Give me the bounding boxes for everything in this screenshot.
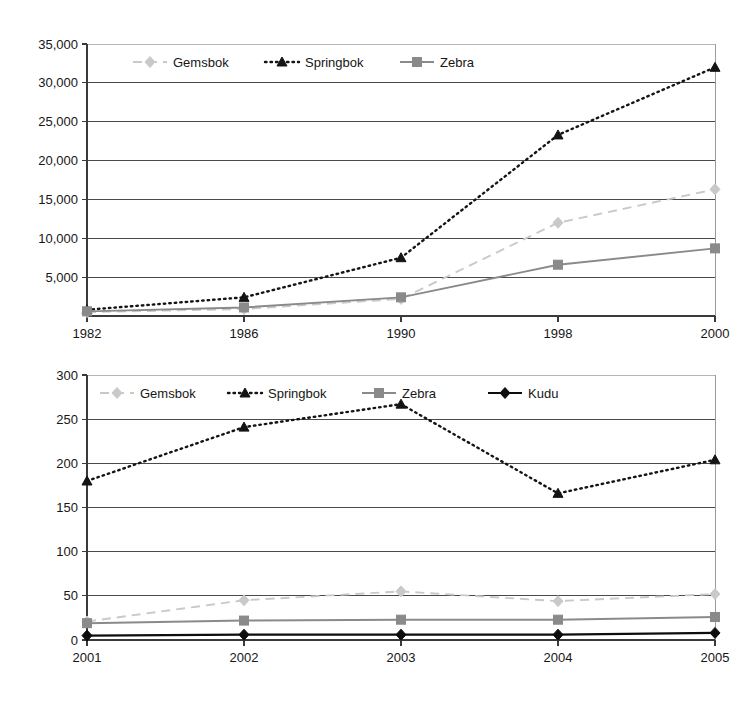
y-axis-ticks: 300250200150100500 (56, 368, 87, 648)
chart-bottom-container: 30025020015010050020012002200320042005Ge… (0, 352, 746, 711)
y-tick-label: 30,000 (38, 75, 78, 90)
legend-marker-zebra (375, 389, 384, 398)
x-tick-label: 2004 (544, 650, 573, 665)
data-point-zebra-2001 (83, 619, 92, 628)
data-point-zebra-2004 (554, 615, 563, 624)
data-point-kudu-2005 (710, 627, 720, 638)
data-point-zebra-1998 (554, 260, 563, 269)
data-point-springbok-2000 (710, 62, 720, 71)
data-point-gemsbok-1998 (553, 217, 563, 228)
y-tick-label: 100 (56, 544, 78, 559)
legend: GemsbokSpringbokZebra (133, 55, 475, 70)
series-line-springbok (87, 404, 715, 493)
data-point-kudu-2002 (239, 629, 249, 640)
data-point-zebra-2000 (711, 244, 720, 253)
legend-label-zebra: Zebra (440, 55, 475, 70)
series-springbok (82, 62, 720, 313)
legend-label-gemsbok: Gemsbok (173, 55, 229, 70)
data-point-zebra-1990 (397, 293, 406, 302)
y-tick-label: 15,000 (38, 192, 78, 207)
series-group (82, 399, 720, 641)
legend-item-springbok[interactable]: Springbok (228, 386, 327, 401)
data-point-kudu-2001 (82, 630, 92, 641)
data-point-zebra-2005 (711, 613, 720, 622)
x-tick-label: 2000 (701, 326, 730, 341)
x-tick-label: 1998 (544, 326, 573, 341)
y-tick-label: 250 (56, 412, 78, 427)
data-point-springbok-2004 (553, 488, 563, 497)
legend-label-kudu: Kudu (528, 386, 558, 401)
legend-item-zebra[interactable]: Zebra (400, 55, 475, 70)
data-point-zebra-2003 (397, 615, 406, 624)
series-kudu (82, 627, 720, 641)
legend-item-gemsbok[interactable]: Gemsbok (100, 386, 196, 401)
y-tick-label: 150 (56, 500, 78, 515)
legend-marker-zebra (413, 58, 422, 67)
data-point-springbok-2005 (710, 455, 720, 464)
data-point-zebra-1986 (240, 303, 249, 312)
y-tick-label: 300 (56, 368, 78, 383)
legend-marker-gemsbok (145, 57, 155, 68)
x-tick-label: 1986 (230, 326, 259, 341)
legend-item-springbok[interactable]: Springbok (265, 55, 364, 70)
series-zebra (83, 613, 720, 628)
y-tick-label: 35,000 (38, 37, 78, 52)
gridlines (87, 44, 715, 277)
legend-marker-kudu (500, 388, 510, 399)
x-tick-label: 1990 (387, 326, 416, 341)
chart-bottom-svg: 30025020015010050020012002200320042005Ge… (0, 352, 746, 711)
legend-label-springbok: Springbok (305, 55, 364, 70)
x-tick-label: 2005 (701, 650, 730, 665)
legend-item-gemsbok[interactable]: Gemsbok (133, 55, 229, 70)
legend-label-zebra: Zebra (402, 386, 437, 401)
data-point-zebra-2002 (240, 616, 249, 625)
y-tick-label: 25,000 (38, 114, 78, 129)
data-point-zebra-1982 (83, 307, 92, 316)
charts-page: 35,00030,00025,00020,00015,00010,0005,00… (0, 0, 746, 711)
series-group (82, 62, 720, 317)
data-point-springbok-2003 (396, 399, 406, 408)
y-tick-label: 50 (64, 588, 78, 603)
series-springbok (82, 399, 720, 497)
y-tick-label: 5,000 (45, 270, 78, 285)
legend-item-zebra[interactable]: Zebra (362, 386, 437, 401)
x-tick-label: 2001 (73, 650, 102, 665)
data-point-gemsbok-2005 (710, 589, 720, 600)
y-tick-label: 20,000 (38, 153, 78, 168)
data-point-gemsbok-2003 (396, 586, 406, 597)
y-tick-label: 0 (71, 633, 78, 648)
legend-label-gemsbok: Gemsbok (140, 386, 196, 401)
data-point-kudu-2003 (396, 629, 406, 640)
y-tick-label: 10,000 (38, 231, 78, 246)
y-tick-label: 200 (56, 456, 78, 471)
data-point-gemsbok-2000 (710, 184, 720, 195)
legend-item-kudu[interactable]: Kudu (488, 386, 558, 401)
data-point-gemsbok-2002 (239, 595, 249, 606)
data-point-gemsbok-2004 (553, 596, 563, 607)
y-axis-ticks: 35,00030,00025,00020,00015,00010,0005,00… (38, 37, 87, 285)
legend-label-springbok: Springbok (268, 386, 327, 401)
x-axis-ticks: 20012002200320042005 (73, 640, 730, 665)
x-axis-ticks: 19821986199019982000 (73, 316, 730, 341)
legend: GemsbokSpringbokZebraKudu (100, 386, 558, 401)
x-tick-label: 1982 (73, 326, 102, 341)
legend-marker-gemsbok (112, 388, 122, 399)
data-point-springbok-2001 (82, 476, 92, 485)
x-tick-label: 2003 (387, 650, 416, 665)
chart-top-svg: 35,00030,00025,00020,00015,00010,0005,00… (0, 0, 746, 352)
data-point-kudu-2004 (553, 629, 563, 640)
chart-top-container: 35,00030,00025,00020,00015,00010,0005,00… (0, 0, 746, 352)
x-tick-label: 2002 (230, 650, 259, 665)
series-line-springbok (87, 67, 715, 309)
